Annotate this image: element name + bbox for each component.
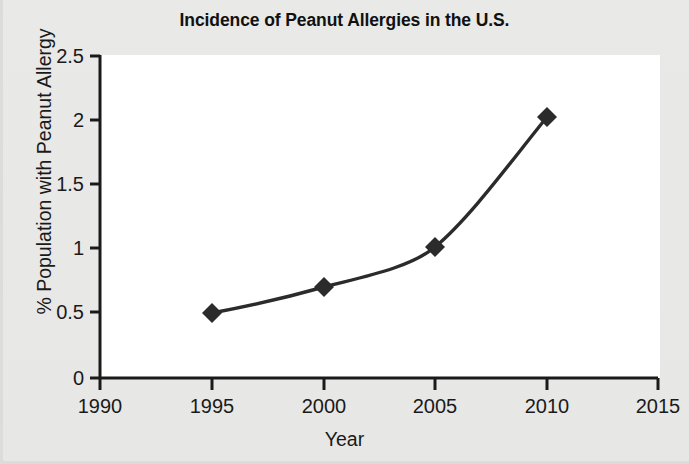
data-point-1995: [202, 303, 222, 323]
data-line-series-1: [212, 117, 547, 313]
y-tick-label-0: 0: [40, 367, 84, 390]
x-tick-label-1995: 1995: [190, 395, 235, 418]
x-tick-label-2005: 2005: [413, 395, 458, 418]
page-edge-left: [0, 0, 3, 464]
x-tick-marks: [100, 378, 658, 390]
x-axis-title: Year: [0, 428, 689, 451]
x-tick-label-2010: 2010: [525, 395, 570, 418]
data-markers: [202, 107, 557, 323]
x-tick-label-1990: 1990: [78, 395, 123, 418]
x-tick-label-2000: 2000: [302, 395, 347, 418]
x-tick-label-2015: 2015: [636, 395, 681, 418]
data-point-2000: [314, 277, 334, 297]
chart-figure: Incidence of Peanut Allergies in the U.S…: [0, 0, 689, 464]
y-axis-title: % Population with Peanut Allergy: [33, 2, 56, 342]
